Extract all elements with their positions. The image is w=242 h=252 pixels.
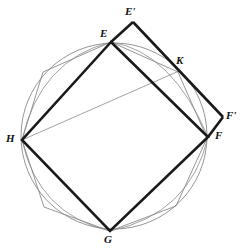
geometry-figure-root: E' E K F' F H G (0, 0, 242, 252)
segment-Eprime-to-K-to-Fprime (133, 22, 223, 117)
point-label-F: F (215, 130, 222, 141)
point-label-G: G (104, 234, 112, 245)
point-label-E-prime: E' (125, 6, 135, 17)
point-label-F-prime: F' (226, 110, 236, 121)
point-label-E: E (100, 28, 107, 39)
chord-H-to-K (22, 71, 179, 140)
geometry-canvas (0, 0, 242, 252)
point-label-H: H (6, 133, 15, 144)
segment-E-to-Eprime (111, 22, 133, 42)
point-label-K: K (176, 55, 183, 66)
bold-construction-group (111, 22, 223, 137)
